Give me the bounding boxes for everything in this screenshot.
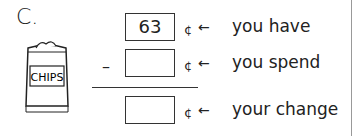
problem-label: C. [16, 4, 38, 29]
cent-sign: ¢ [184, 22, 192, 37]
svg-text:CHIPS: CHIPS [31, 71, 64, 84]
you-spend-label: you spend [232, 52, 320, 72]
you-spend-box[interactable] [125, 49, 175, 77]
cent-sign: ¢ [184, 58, 192, 73]
you-have-box: 63 [125, 13, 175, 41]
minus-sign: – [102, 57, 110, 76]
arrow-left-icon: ← [198, 55, 210, 71]
your-change-label: your change [232, 99, 338, 119]
you-have-label: you have [232, 16, 310, 36]
page-edge [351, 0, 352, 136]
arrow-left-icon: ← [198, 102, 210, 118]
cent-sign: ¢ [184, 105, 192, 120]
divider [92, 87, 198, 88]
your-change-box[interactable] [125, 96, 175, 124]
chips-bag-icon: CHIPS [22, 40, 72, 114]
arrow-left-icon: ← [198, 19, 210, 35]
